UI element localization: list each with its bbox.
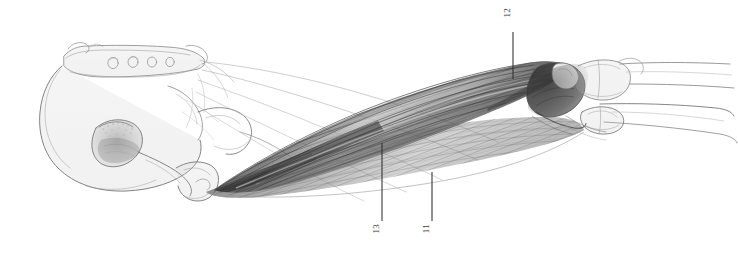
lower-leg-group (560, 58, 737, 143)
fibula (580, 104, 737, 143)
anatomy-drawing-canvas (0, 0, 738, 257)
label-12: 12 (503, 8, 512, 18)
label-13: 13 (372, 224, 381, 234)
anatomical-figure: 12 13 11 (0, 0, 738, 257)
label-11: 11 (422, 224, 431, 233)
tibia (618, 58, 734, 88)
femoral-condyles (576, 60, 631, 100)
sacrum (64, 43, 207, 78)
